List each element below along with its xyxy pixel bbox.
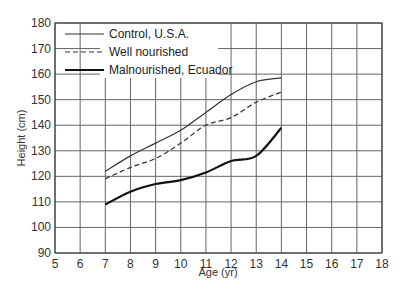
y-tick-label: 100: [31, 220, 51, 234]
x-tick-label: 15: [300, 257, 314, 271]
data-series: [105, 78, 281, 205]
x-tick-label: 7: [102, 257, 109, 271]
y-tick-label: 90: [38, 246, 52, 260]
height-growth-chart: 5678910111213141516171890100110120130140…: [0, 0, 401, 295]
y-tick-label: 150: [31, 93, 51, 107]
x-tick-label: 5: [52, 257, 59, 271]
legend-label: Malnourished, Ecuador: [109, 63, 232, 77]
x-tick-label: 14: [275, 257, 289, 271]
legend-label: Control, U.S.A.: [109, 27, 189, 41]
x-tick-label: 18: [375, 257, 389, 271]
y-tick-label: 160: [31, 67, 51, 81]
y-tick-label: 130: [31, 144, 51, 158]
x-axis-label: Age (yr): [198, 266, 237, 278]
y-tick-label: 180: [31, 16, 51, 30]
x-tick-label: 13: [250, 257, 264, 271]
series-line-2: [105, 128, 281, 205]
y-tick-label: 140: [31, 118, 51, 132]
y-axis-label: Height (cm): [15, 110, 27, 167]
x-tick-label: 8: [127, 257, 134, 271]
x-tick-label: 9: [152, 257, 159, 271]
y-tick-label: 170: [31, 42, 51, 56]
x-tick-label: 17: [350, 257, 364, 271]
x-tick-label: 6: [77, 257, 84, 271]
x-tick-label: 16: [325, 257, 339, 271]
y-tick-label: 120: [31, 169, 51, 183]
y-tick-label: 110: [32, 195, 51, 209]
legend-label: Well nourished: [109, 45, 188, 59]
series-line-1: [105, 92, 281, 179]
x-tick-label: 10: [174, 257, 188, 271]
